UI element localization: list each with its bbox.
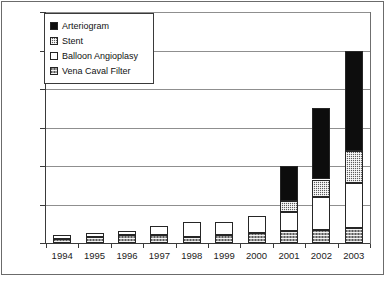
x-tick-mark-end: [370, 244, 371, 248]
x-tick-mark-2001: [273, 244, 274, 248]
bar-segment-1994-balloon-angioplasy: [53, 235, 71, 239]
bar-segment-2003-vena-caval-filter: [345, 228, 363, 243]
x-tick-mark-1998: [176, 244, 177, 248]
legend-item-balloon-angioplasy: Balloon Angioplasy: [50, 49, 148, 63]
x-tick-mark-1994: [46, 244, 47, 248]
legend-label-balloon-angioplasy: Balloon Angioplasy: [62, 52, 138, 61]
bar-segment-2001-stent: [280, 201, 298, 213]
x-tick-mark-2000: [240, 244, 241, 248]
bar-segment-1996-balloon-angioplasy: [118, 231, 136, 235]
x-tick-mark-2002: [305, 244, 306, 248]
bar-segment-1996-vena-caval-filter: [118, 235, 136, 243]
bar-segment-1997-balloon-angioplasy: [150, 226, 168, 236]
bar-2003: [345, 12, 363, 243]
legend-item-vena-caval-filter: Vena Caval Filter: [50, 64, 148, 78]
bar-1998: [183, 12, 201, 243]
bar-segment-1998-vena-caval-filter: [183, 237, 201, 243]
bar-segment-1999-vena-caval-filter: [215, 235, 233, 243]
chart-legend: ArteriogramStentBalloon AngioplasyVena C…: [44, 13, 154, 84]
legend-item-stent: Stent: [50, 34, 148, 48]
bar-segment-2001-arteriogram: [280, 166, 298, 201]
x-tick-mark-1995: [78, 244, 79, 248]
bar-segment-2002-stent: [312, 180, 330, 197]
legend-label-arteriogram: Arteriogram: [62, 22, 109, 31]
bar-segment-1995-balloon-angioplasy: [86, 233, 104, 237]
legend-swatch-balloon-angioplasy: [50, 52, 58, 60]
bar-segment-1994-vena-caval-filter: [53, 239, 71, 243]
bar-segment-2002-vena-caval-filter: [312, 230, 330, 243]
legend-label-stent: Stent: [62, 37, 83, 46]
legend-swatch-stent: [50, 37, 58, 45]
bar-2001: [280, 12, 298, 243]
bar-segment-2001-vena-caval-filter: [280, 231, 298, 243]
bar-segment-1999-balloon-angioplasy: [215, 222, 233, 235]
x-tick-mark-1996: [111, 244, 112, 248]
bar-segment-2002-balloon-angioplasy: [312, 197, 330, 230]
x-tick-mark-1999: [208, 244, 209, 248]
bar-segment-1995-vena-caval-filter: [86, 237, 104, 243]
plot-right-border: [370, 12, 371, 244]
bar-segment-1998-balloon-angioplasy: [183, 222, 201, 237]
x-tick-mark-2003: [338, 244, 339, 248]
bar-segment-2002-arteriogram: [312, 108, 330, 179]
bar-2000: [248, 12, 266, 243]
legend-swatch-vena-caval-filter: [50, 67, 58, 75]
bar-segment-2003-stent: [345, 151, 363, 184]
bar-1999: [215, 12, 233, 243]
bar-segment-2000-balloon-angioplasy: [248, 216, 266, 233]
bar-segment-1997-vena-caval-filter: [150, 235, 168, 243]
bar-segment-2000-vena-caval-filter: [248, 233, 266, 243]
legend-swatch-arteriogram: [50, 22, 58, 30]
bar-2002: [312, 12, 330, 243]
bar-segment-2001-balloon-angioplasy: [280, 212, 298, 231]
x-tick-label-2003: 2003: [334, 251, 374, 261]
x-tick-mark-1997: [143, 244, 144, 248]
figure-container: 020406080100120 199419951996199719981999…: [0, 0, 386, 283]
legend-label-vena-caval-filter: Vena Caval Filter: [62, 67, 131, 76]
bar-segment-2003-arteriogram: [345, 51, 363, 151]
bar-segment-2003-balloon-angioplasy: [345, 183, 363, 227]
legend-item-arteriogram: Arteriogram: [50, 19, 148, 33]
